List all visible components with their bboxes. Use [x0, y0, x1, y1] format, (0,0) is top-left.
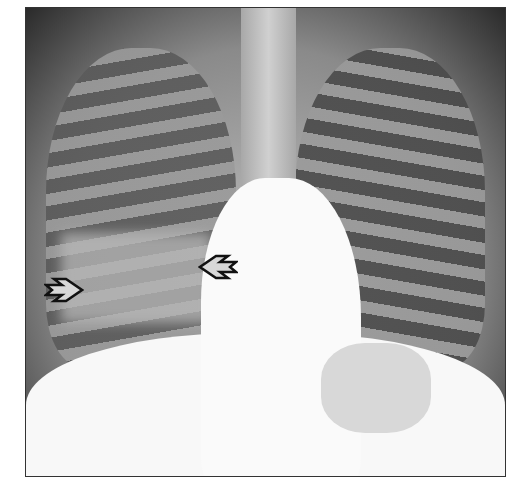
arrow-right-icon [44, 277, 84, 303]
gastric-bubble [321, 343, 431, 433]
cardiac-silhouette [201, 178, 361, 477]
chest-xray-image [25, 7, 506, 477]
arrow-left-icon [198, 254, 238, 280]
